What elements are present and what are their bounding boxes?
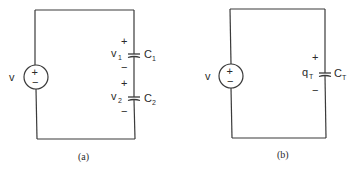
c2-minus-sign: − <box>121 105 127 117</box>
c1-plus-sign: + <box>121 35 127 47</box>
source-minus-sign: − <box>32 76 38 88</box>
circuit-a: + − v + − v 1 C 1 + − v 2 C 2 (a) <box>9 10 156 163</box>
wire-left-lower-a <box>36 89 37 139</box>
c2-name-subscript: 2 <box>152 99 156 106</box>
wire-left-lower-b <box>231 88 232 138</box>
c1-name-label: C <box>144 48 152 60</box>
source-label-a: v <box>9 71 15 83</box>
ct-charge-subscript: T <box>309 73 314 80</box>
c2-voltage-label: v <box>111 90 117 102</box>
ct-plus-sign: + <box>312 51 318 63</box>
c2-plus-sign: + <box>121 77 127 89</box>
circuit-figure: + − v + − v 1 C 1 + − v 2 C 2 (a) <box>0 0 356 171</box>
c2-voltage-subscript: 2 <box>118 97 122 104</box>
voltage-source-b: + − <box>219 64 243 88</box>
source-minus-sign: − <box>227 75 233 87</box>
source-label-b: v <box>205 70 211 82</box>
ct-charge-label: q <box>302 66 308 78</box>
ct-name-subscript: T <box>342 74 347 81</box>
c2-name-label: C <box>144 92 152 104</box>
wire-right-3-a <box>134 100 135 139</box>
c1-minus-sign: − <box>121 61 127 73</box>
panel-caption-a: (a) <box>78 151 89 163</box>
c1-voltage-label: v <box>111 47 117 59</box>
wire-left-upper-b <box>230 9 231 64</box>
voltage-source-a: + − <box>24 65 48 89</box>
circuit-b: + − v + − q T C T (b) <box>205 9 347 161</box>
c1-voltage-subscript: 1 <box>118 54 122 61</box>
ct-minus-sign: − <box>312 84 318 96</box>
wire-right-2-b <box>325 76 326 138</box>
ct-name-label: C <box>334 67 342 79</box>
c1-name-subscript: 1 <box>152 55 156 62</box>
panel-caption-b: (b) <box>277 149 289 161</box>
